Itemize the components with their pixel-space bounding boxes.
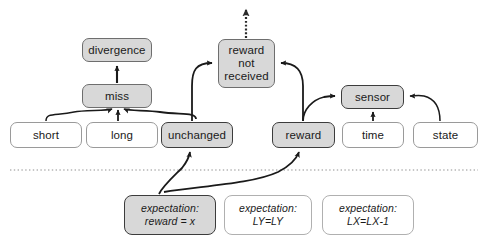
node-unchanged[interactable]: unchanged [161,122,233,148]
node-sensor-label: sensor [355,91,390,104]
node-reward-not-received-line3: received [224,70,268,83]
node-state[interactable]: state [413,122,478,148]
node-state-label: state [433,129,458,142]
node-short-label: short [33,129,59,142]
node-expectation-lx[interactable]: expectation: LX=LX-1 [322,195,414,235]
node-reward-label: reward [286,129,322,142]
node-sensor[interactable]: sensor [341,85,404,109]
node-reward-not-received-line2: not [238,57,254,70]
node-expectation-lx-line1: expectation: [339,202,397,215]
node-unchanged-label: unchanged [168,129,226,142]
node-expectation-reward[interactable]: expectation: reward = x [124,195,216,235]
edge-unchanged-to-reward-not-received [192,63,212,121]
edge-reward-to-reward-not-received [281,63,303,121]
node-time[interactable]: time [342,122,404,148]
node-short[interactable]: short [10,122,82,148]
node-expectation-ly-line1: expectation: [239,202,297,215]
node-time-label: time [362,129,384,142]
node-miss-label: miss [105,90,129,103]
node-reward-not-received[interactable]: reward not received [218,39,275,88]
node-divergence[interactable]: divergence [82,38,152,62]
node-reward[interactable]: reward [272,122,335,148]
node-expectation-ly[interactable]: expectation: LY=LY [224,195,312,235]
edge-expectation-reward-to-reward [164,152,299,192]
edge-state-to-sensor [410,96,440,121]
node-expectation-ly-line2: LY=LY [253,215,283,228]
diagram-canvas: divergence miss short long unchanged rew… [0,0,489,243]
node-expectation-reward-line1: expectation: [141,202,199,215]
node-expectation-lx-line2: LX=LX-1 [347,215,389,228]
node-divergence-label: divergence [88,44,145,57]
node-expectation-reward-line2: reward = x [145,215,195,228]
node-reward-not-received-line1: reward [229,44,265,57]
edge-expectation-reward-to-unchanged [159,152,190,194]
node-long-label: long [111,129,133,142]
node-long[interactable]: long [86,122,158,148]
edge-reward-to-sensor [303,96,335,121]
edge-unchanged-to-miss [124,109,196,119]
edge-short-to-miss [46,109,112,121]
node-miss[interactable]: miss [82,84,152,108]
